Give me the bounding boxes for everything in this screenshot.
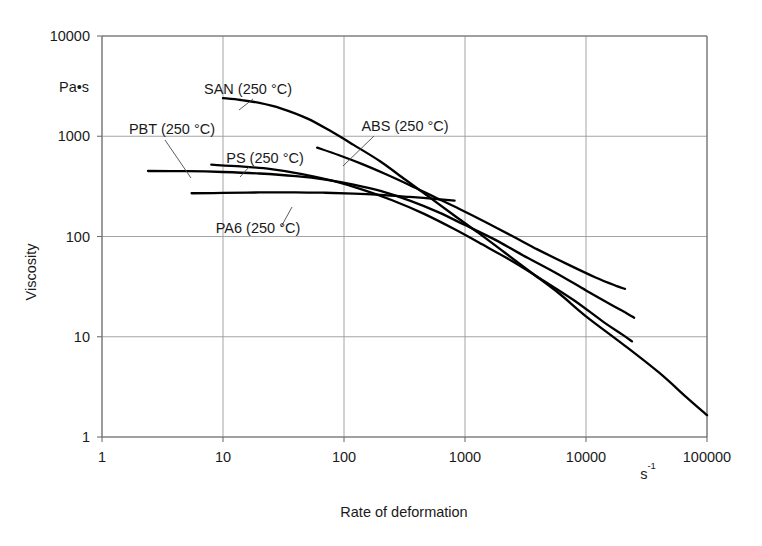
x-tick-label: 10000 bbox=[566, 449, 606, 465]
y-tick-label: 1000 bbox=[58, 128, 90, 144]
x-tick-label: 100 bbox=[332, 449, 356, 465]
y-tick-label: 100 bbox=[66, 229, 90, 245]
x-tick-label: 100000 bbox=[683, 449, 731, 465]
series-label-ps: PS (250 °C) bbox=[226, 150, 304, 166]
chart-figure: 110100100010000 110100100010000100000 SA… bbox=[0, 0, 762, 546]
viscosity-log-log-chart: 110100100010000 110100100010000100000 SA… bbox=[0, 0, 762, 546]
x-axis-title: Rate of deformation bbox=[340, 504, 467, 520]
y-tick-label: 1 bbox=[82, 429, 90, 445]
series-label-abs: ABS (250 °C) bbox=[361, 118, 448, 134]
y-tick-label: 10000 bbox=[50, 28, 90, 44]
series-label-pa6: PA6 (250 °C) bbox=[216, 220, 301, 236]
y-axis-unit-label: Pa•s bbox=[59, 79, 89, 95]
y-axis-title: Viscosity bbox=[23, 243, 39, 301]
series-label-san: SAN (250 °C) bbox=[204, 81, 292, 97]
x-tick-label: 1000 bbox=[449, 449, 481, 465]
y-tick-label: 10 bbox=[74, 329, 90, 345]
x-tick-label: 10 bbox=[215, 449, 231, 465]
x-tick-label: 1 bbox=[98, 449, 106, 465]
series-label-pbt: PBT (250 °C) bbox=[129, 121, 215, 137]
